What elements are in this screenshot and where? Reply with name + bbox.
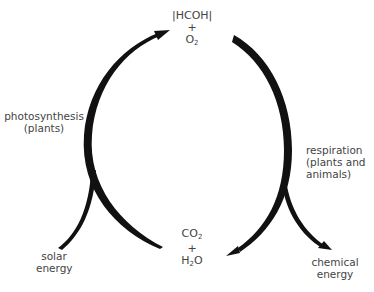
chemical-energy-label: chemical energy: [310, 256, 360, 280]
photosynthesis-arrow: [84, 33, 163, 249]
photosynthesis-label: photosynthesis (plants): [2, 110, 86, 134]
photosynthesis-arrowhead-icon: [154, 30, 170, 40]
oxygen-formula: O2: [172, 34, 212, 49]
solar-energy-label: solar energy: [36, 250, 72, 274]
solar-energy-arrow: [58, 170, 96, 250]
carbon-cycle-diagram: |HCOH| + O2 CO2 + H2O photosynthesis (pl…: [0, 0, 374, 292]
respiration-arrow: [232, 35, 292, 252]
co2-arrowhead-icon: [226, 246, 240, 256]
co2-water-label: CO2 + H2O: [176, 228, 208, 270]
co2-formula: CO2: [176, 228, 208, 243]
glucose-oxygen-label: |HCOH| + O2: [172, 10, 212, 49]
chemical-energy-arrow: [282, 180, 324, 248]
water-formula: H2O: [176, 255, 208, 270]
respiration-label: respiration (plants and animals): [306, 144, 365, 180]
